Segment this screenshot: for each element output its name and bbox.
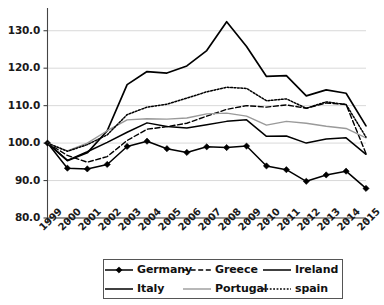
- series-line-spain: [48, 87, 367, 151]
- legend-label: spain: [295, 282, 328, 295]
- legend-item-greece[interactable]: Greece: [182, 263, 262, 276]
- legend-item-italy[interactable]: Italy: [104, 282, 182, 295]
- legend-row: ItalyPortugalspain: [104, 279, 342, 298]
- line-solid-swatch: [104, 283, 134, 295]
- legend-item-ireland[interactable]: Ireland: [262, 263, 340, 276]
- line-gray-swatch: [182, 283, 212, 295]
- legend-label: Portugal: [215, 282, 267, 295]
- y-tick-label: 120.0: [0, 61, 40, 73]
- y-tick-label: 110.0: [0, 99, 40, 111]
- line-diamond-swatch: [104, 264, 134, 276]
- line-dashed-swatch: [182, 264, 212, 276]
- data-point-marker: [164, 146, 170, 152]
- y-tick-label: 90.0: [0, 174, 40, 186]
- data-point-marker: [303, 178, 309, 184]
- data-point-marker: [323, 172, 329, 178]
- data-point-marker: [283, 167, 289, 173]
- y-tick-label: 100.0: [0, 136, 40, 148]
- data-point-marker: [184, 149, 190, 155]
- data-point-marker: [84, 166, 90, 172]
- series-lines: [44, 22, 369, 192]
- legend-item-portugal[interactable]: Portugal: [182, 282, 262, 295]
- series-line-greece: [48, 103, 367, 162]
- chart-legend: GermanyGreeceIreland ItalyPortugalspain: [103, 259, 343, 299]
- legend-item-germany[interactable]: Germany: [104, 263, 182, 276]
- legend-label: Ireland: [295, 263, 338, 276]
- axes: [44, 8, 367, 218]
- legend-row: GermanyGreeceIreland: [104, 260, 342, 279]
- legend-label: Italy: [137, 282, 164, 295]
- y-tick-label: 130.0: [0, 24, 40, 36]
- line-solid-swatch: [262, 264, 292, 276]
- line-chart: 80.090.0100.0110.0120.0130.0 19992000200…: [0, 0, 384, 305]
- legend-item-spain[interactable]: spain: [262, 282, 340, 295]
- data-point-marker: [224, 144, 230, 150]
- legend-label: Greece: [215, 263, 258, 276]
- data-point-marker: [204, 144, 210, 150]
- y-tick-label: 80.0: [0, 211, 40, 223]
- line-dotted-swatch: [262, 283, 292, 295]
